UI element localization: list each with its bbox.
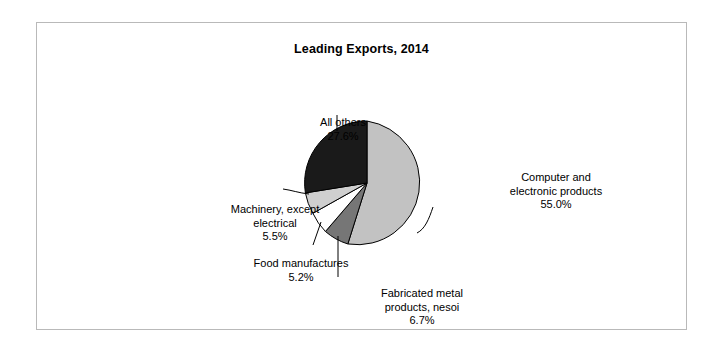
pie-label-machinery-percent: 5.5%	[210, 230, 340, 244]
pie-label-all-others-text: All others	[320, 116, 366, 128]
leader-line-computer	[417, 207, 433, 233]
pie-label-computer-line1: Computer and	[521, 171, 591, 183]
pie-label-fabricated-line1: Fabricated metal	[381, 287, 463, 299]
pie-label-fabricated-line2: products, nesoi	[360, 301, 484, 315]
pie-label-computer-percent: 55.0%	[489, 198, 623, 212]
pie-label-fabricated-metal-products-nesoi: Fabricated metal products, nesoi 6.7%	[360, 287, 484, 328]
pie-label-computer-line2: electronic products	[489, 185, 623, 199]
pie-label-all-others-percent: 27.6%	[291, 130, 395, 144]
pie-label-computer-and-electronic-products: Computer and electronic products 55.0%	[489, 171, 623, 212]
pie-label-fabricated-percent: 6.7%	[360, 314, 484, 328]
pie-label-machinery-except-electrical: Machinery, except electrical 5.5%	[210, 203, 340, 244]
pie-label-food-manufactures: Food manufactures 5.2%	[237, 257, 365, 284]
chart-frame: Leading Exports, 2014 All others 27.6% C…	[36, 22, 687, 330]
pie-label-machinery-line1: Machinery, except	[231, 203, 319, 215]
pie-label-machinery-line2: electrical	[210, 217, 340, 231]
pie-label-food-percent: 5.2%	[237, 271, 365, 285]
pie-label-all-others: All others 27.6%	[291, 116, 395, 143]
pie-label-food-line1: Food manufactures	[254, 257, 349, 269]
